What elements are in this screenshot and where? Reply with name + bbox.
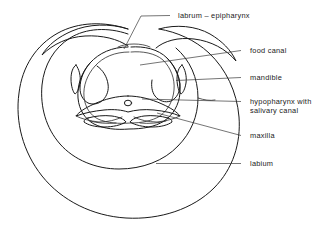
label-hypopharynx-line1: hypopharynx with	[250, 97, 312, 106]
labium-inner-right-fold	[198, 98, 215, 100]
label-hypopharynx-line2: salivary canal	[250, 106, 298, 115]
salivary-canal	[124, 100, 131, 106]
label-food-canal: food canal	[250, 46, 287, 55]
label-labium: labium	[250, 159, 273, 168]
leader-line-maxilla	[157, 113, 241, 136]
labium-tip-left	[42, 25, 128, 55]
food-canal-inner-wall	[84, 52, 174, 124]
labium-tip-right	[156, 26, 236, 61]
diagram-canvas: labrum – epipharynx food canal mandible …	[0, 0, 328, 230]
leader-line-mandible	[176, 78, 241, 81]
labium-outer-outline	[18, 24, 239, 218]
leader-line-food-canal	[140, 51, 241, 66]
leader-line-hypopharynx	[142, 99, 241, 102]
mandible-right	[177, 65, 186, 94]
label-mandible: mandible	[250, 73, 282, 82]
mandible-left	[71, 65, 80, 94]
anatomy-figure: labrum – epipharynx food canal mandible …	[0, 0, 328, 230]
label-maxilla: maxilla	[250, 131, 275, 140]
lobe-right-upper	[152, 58, 180, 102]
label-labrum-epipharynx: labrum – epipharynx	[178, 11, 250, 20]
